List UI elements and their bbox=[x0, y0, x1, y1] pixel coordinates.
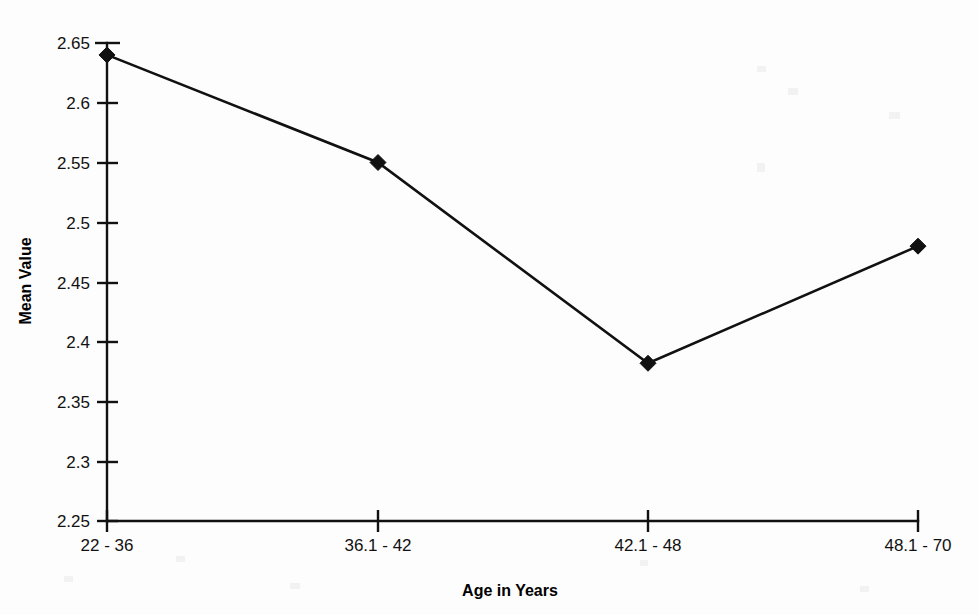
y-axis-title: Mean Value bbox=[17, 237, 34, 324]
y-tick-label-8: 2.25 bbox=[57, 512, 90, 531]
y-axis-tick-labels: 2.65 2.6 2.55 2.5 2.45 2.4 2.35 2.3 2.25 bbox=[57, 34, 90, 531]
y-tick-label-0: 2.65 bbox=[57, 34, 90, 53]
data-series-line bbox=[107, 55, 918, 363]
y-tick-label-4: 2.45 bbox=[57, 274, 90, 293]
chart-page: 2.65 2.6 2.55 2.5 2.45 2.4 2.35 2.3 2.25… bbox=[0, 0, 979, 615]
y-tick-label-2: 2.55 bbox=[57, 154, 90, 173]
y-tick-label-5: 2.4 bbox=[66, 333, 90, 352]
y-tick-label-1: 2.6 bbox=[66, 94, 90, 113]
line-chart: 2.65 2.6 2.55 2.5 2.45 2.4 2.35 2.3 2.25… bbox=[0, 0, 979, 615]
y-tick-label-6: 2.35 bbox=[57, 393, 90, 412]
x-axis-tick-labels: 22 - 36 36.1 - 42 42.1 - 48 48.1 - 70 bbox=[81, 536, 952, 555]
x-tick-label-1: 36.1 - 42 bbox=[344, 536, 411, 555]
y-tick-label-3: 2.5 bbox=[66, 214, 90, 233]
x-axis-title: Age in Years bbox=[462, 582, 558, 599]
data-series-markers bbox=[99, 47, 926, 371]
y-tick-label-7: 2.3 bbox=[66, 453, 90, 472]
x-tick-label-3: 48.1 - 70 bbox=[884, 536, 951, 555]
data-point-marker-0 bbox=[99, 47, 115, 63]
data-point-marker-3 bbox=[910, 238, 926, 254]
x-tick-label-0: 22 - 36 bbox=[81, 536, 134, 555]
x-tick-label-2: 42.1 - 48 bbox=[614, 536, 681, 555]
scan-noise bbox=[64, 66, 900, 592]
